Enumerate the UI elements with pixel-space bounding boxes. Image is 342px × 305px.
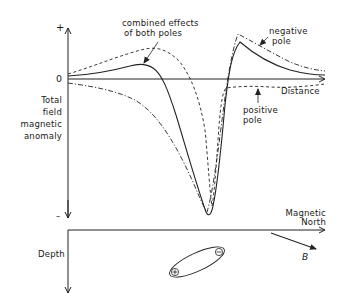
negative-annotation-arrow: [260, 37, 268, 45]
negative-pole-label: negative pole: [269, 26, 308, 46]
combined-label-line-2: of both poles: [122, 28, 199, 38]
field-vector-b-arrow: [271, 233, 316, 249]
combined-effects-label: combined effects of both poles: [122, 18, 199, 38]
y-axis-title-line-1: Total: [12, 94, 62, 106]
y-axis-title-line-3: magnetic: [12, 118, 62, 130]
distance-axis-label: Distance: [281, 86, 320, 96]
negative-label-line-1: negative: [269, 26, 308, 36]
field-vector-b-label: B: [302, 252, 308, 262]
depth-axis-label: Depth: [38, 249, 65, 259]
y-axis-zero-label: 0: [56, 74, 62, 84]
combined-effects-curve: [68, 42, 325, 215]
y-axis-minus-label: –: [56, 211, 60, 221]
y-axis-plus-label: +: [56, 23, 65, 33]
y-axis-title-line-2: field: [12, 106, 62, 118]
positive-label-line-1: positive: [243, 105, 278, 115]
y-axis-title-line-4: anomaly: [12, 130, 62, 142]
y-axis-title: Total field magnetic anomaly: [12, 94, 62, 142]
magnetic-body-outline: [166, 241, 228, 283]
magnetic-north-line-2: North: [274, 218, 326, 227]
negative-label-line-2: pole: [269, 36, 308, 46]
combined-annotation-arrow: [144, 42, 158, 63]
magnetic-north-label: Magnetic North: [274, 209, 326, 227]
positive-label-line-2: pole: [243, 115, 278, 125]
combined-label-line-1: combined effects: [122, 18, 199, 28]
positive-pole-label: positive pole: [243, 105, 278, 125]
